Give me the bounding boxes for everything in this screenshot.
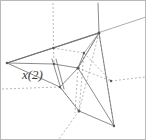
solid-leftapex-to-midleft	[7, 63, 54, 64]
dashed-left-ray	[2, 87, 60, 89]
vertex-bottom-spike	[113, 125, 115, 127]
dashed-uppermid-to-rightmid	[54, 48, 85, 53]
vertex-right-node	[110, 80, 112, 82]
solid-topright-to-spike	[99, 33, 114, 126]
vertex-right-mid	[83, 52, 85, 54]
solid-topright-vertical-stub	[98, 3, 99, 33]
solid-leftapex-to-uppermid	[7, 48, 54, 63]
vertex-mid-left	[53, 63, 55, 65]
vertex-hub-center	[76, 66, 79, 69]
dashed-vertical-top-ray	[53, 3, 54, 48]
solid-uppermid-to-topright	[54, 33, 100, 48]
vertex-left-apex	[6, 62, 9, 65]
figure-container: x(2)	[0, 0, 146, 140]
vertex-upper-mid	[52, 47, 55, 50]
dashed-topright-to-bottommid	[79, 33, 99, 111]
solid-lowerleft-to-bottommid	[60, 87, 79, 111]
vertex-lower-left	[59, 86, 61, 88]
solid-bottommid-to-spike	[79, 111, 114, 126]
solid-rightmid-to-topright	[84, 33, 99, 53]
vertex-top-right	[98, 32, 101, 35]
label-x-2: x(2)	[22, 67, 43, 83]
dashed-rightnode-to-border	[111, 77, 145, 81]
solid-hub-to-spike	[78, 68, 114, 126]
vertex-bottom-mid	[78, 110, 81, 113]
dashed-uppermid-to-midleft	[54, 48, 55, 64]
dashed-bottommid-left-ray	[59, 111, 79, 139]
solid-edge-group	[7, 3, 146, 126]
